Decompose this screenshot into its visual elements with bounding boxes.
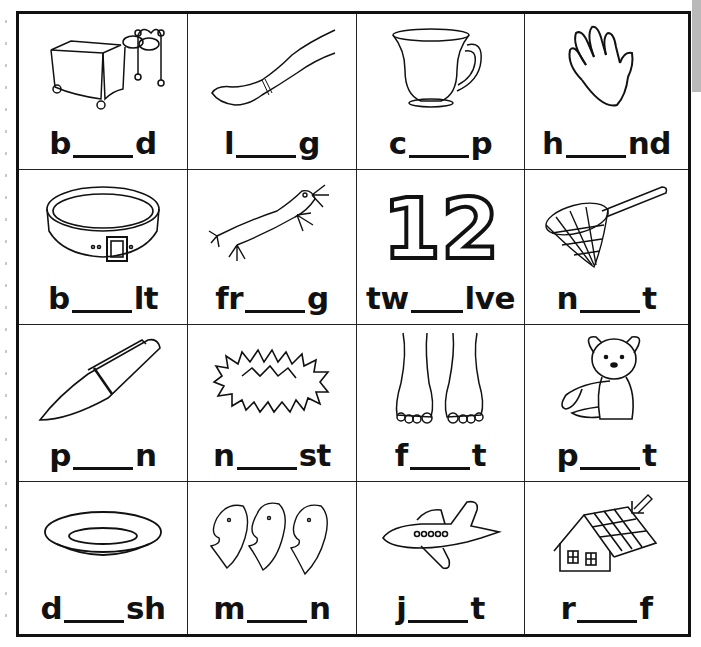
word-prefix: f (395, 440, 408, 471)
word-suffix: sh (126, 593, 166, 624)
pen-icon (19, 331, 187, 431)
word-suffix: lt (134, 283, 158, 314)
word-puzzle: b d (19, 128, 187, 159)
cell-hand: h nd (525, 14, 688, 170)
word-suffix: t (642, 440, 656, 471)
answer-blank[interactable] (73, 155, 133, 158)
word-puzzle: j t (357, 593, 524, 624)
word-puzzle: c p (357, 128, 524, 159)
house-roof-icon (525, 488, 688, 588)
answer-blank[interactable] (245, 310, 305, 313)
word-suffix: g (298, 128, 320, 159)
bed-icon (19, 20, 187, 120)
word-suffix: st (299, 440, 331, 471)
word-prefix: b (48, 283, 70, 314)
cell-nest: n st (188, 325, 357, 482)
answer-blank[interactable] (566, 155, 626, 158)
cell-twelve: 12 tw lve (357, 170, 525, 325)
word-puzzle: l g (188, 128, 356, 159)
answer-blank[interactable] (410, 467, 470, 470)
word-prefix: p (556, 440, 578, 471)
cell-net: n t (525, 170, 688, 325)
jet-airplane-icon (357, 488, 524, 588)
word-suffix: f (639, 593, 652, 624)
word-puzzle: n t (525, 283, 688, 314)
word-suffix: t (472, 440, 486, 471)
answer-blank[interactable] (247, 620, 307, 623)
word-prefix: l (224, 128, 234, 159)
answer-blank[interactable] (580, 467, 640, 470)
answer-blank[interactable] (73, 467, 133, 470)
cell-pet: p t (525, 325, 688, 482)
answer-blank[interactable] (408, 620, 468, 623)
word-prefix: r (561, 593, 576, 624)
word-puzzle: d sh (19, 593, 187, 624)
svg-text:12: 12 (382, 180, 499, 278)
word-suffix: n (309, 593, 331, 624)
answer-blank[interactable] (237, 467, 297, 470)
word-prefix: c (389, 128, 407, 159)
cell-jet: j t (357, 482, 525, 634)
answer-blank[interactable] (411, 310, 463, 313)
feet-icon (357, 331, 524, 431)
word-prefix: tw (366, 283, 408, 314)
frog-icon (188, 176, 356, 276)
word-puzzle: tw lve (357, 283, 524, 314)
binder-hole-marks (5, 20, 7, 630)
page-edge-strip (692, 0, 701, 92)
word-prefix: d (40, 593, 62, 624)
word-suffix: lve (465, 283, 515, 314)
word-puzzle: b lt (19, 283, 187, 314)
cell-pen: p n (19, 325, 188, 482)
cell-leg: l g (188, 14, 357, 170)
cell-dish: d sh (19, 482, 188, 634)
answer-blank[interactable] (409, 155, 469, 158)
word-prefix: b (49, 128, 71, 159)
word-puzzle: m n (188, 593, 356, 624)
cell-cup: c p (357, 14, 525, 170)
word-puzzle: p n (19, 440, 187, 471)
word-puzzle: h nd (525, 128, 688, 159)
nest-icon (188, 331, 356, 431)
word-prefix: n (213, 440, 235, 471)
pet-dog-icon (525, 331, 688, 431)
leg-icon (188, 20, 356, 120)
answer-blank[interactable] (236, 155, 296, 158)
cell-frog: fr g (188, 170, 357, 325)
hand-icon (525, 20, 688, 120)
word-suffix: p (471, 128, 493, 159)
word-prefix: n (557, 283, 579, 314)
cell-bed: b d (19, 14, 188, 170)
net-icon (525, 176, 688, 276)
word-suffix: g (307, 283, 329, 314)
belt-icon (19, 176, 187, 276)
word-prefix: m (213, 593, 245, 624)
word-puzzle: r f (525, 593, 688, 624)
answer-blank[interactable] (72, 310, 132, 313)
word-prefix: fr (215, 283, 243, 314)
word-prefix: h (542, 128, 564, 159)
word-suffix: n (135, 440, 157, 471)
word-prefix: j (396, 593, 406, 624)
cell-feet: f t (357, 325, 525, 482)
word-prefix: p (49, 440, 71, 471)
word-suffix: t (642, 283, 656, 314)
dish-icon (19, 488, 187, 588)
answer-blank[interactable] (580, 310, 640, 313)
word-puzzle: f t (357, 440, 524, 471)
cell-belt: b lt (19, 170, 188, 325)
answer-blank[interactable] (577, 620, 637, 623)
phonics-worksheet-grid: b d l g c p (16, 11, 691, 637)
word-suffix: t (470, 593, 484, 624)
cup-icon (357, 20, 524, 120)
word-puzzle: n st (188, 440, 356, 471)
word-puzzle: p t (525, 440, 688, 471)
word-suffix: d (135, 128, 157, 159)
cell-men: m n (188, 482, 357, 634)
answer-blank[interactable] (64, 620, 124, 623)
number-twelve-icon: 12 (357, 176, 524, 276)
cell-roof: r f (525, 482, 688, 634)
word-puzzle: fr g (188, 283, 356, 314)
word-suffix: nd (628, 128, 671, 159)
men-faces-icon (188, 488, 356, 588)
